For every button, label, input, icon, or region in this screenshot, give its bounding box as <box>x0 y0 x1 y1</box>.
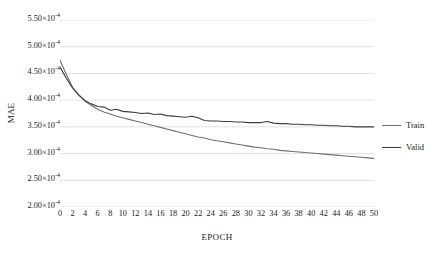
y-tick-label: 3.00×10-4 <box>4 149 60 157</box>
y-tick-label: 4.00×10-4 <box>4 95 60 103</box>
legend-item-valid[interactable]: Valid <box>382 136 444 158</box>
series-line-valid <box>60 67 374 127</box>
legend-line-swatch-train <box>382 125 401 126</box>
y-tick-label: 3.50×10-4 <box>4 122 60 130</box>
legend-line-swatch-valid <box>382 147 401 148</box>
y-tick-label: 2.50×10-4 <box>4 175 60 183</box>
line-chart-figure: MAE 5.50×10-45.00×10-44.50×10-44.00×10-4… <box>0 0 444 255</box>
y-tick-label: 5.50×10-4 <box>4 15 60 23</box>
legend-item-train[interactable]: Train <box>382 114 444 136</box>
legend-label-valid: Valid <box>406 142 424 152</box>
legend-label-train: Train <box>406 120 424 130</box>
plot-area <box>60 20 374 207</box>
x-tick-label: 50 <box>365 210 383 218</box>
y-tick-label: 5.00×10-4 <box>4 42 60 50</box>
chart-legend: Train Valid <box>382 114 444 158</box>
y-tick-label: 4.50×10-4 <box>4 68 60 76</box>
x-axis-title: EPOCH <box>60 232 374 242</box>
plot-svg <box>60 20 374 207</box>
